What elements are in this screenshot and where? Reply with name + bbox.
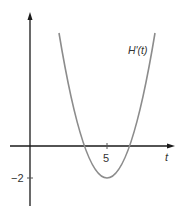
chart: H'(t) t 5 −2 bbox=[0, 0, 187, 217]
y-tick-label-neg2: −2 bbox=[11, 172, 24, 184]
x-axis bbox=[10, 144, 175, 149]
y-axis bbox=[28, 12, 33, 206]
x-axis-label: t bbox=[165, 151, 169, 163]
curve-label: H'(t) bbox=[128, 44, 148, 56]
x-tick-label-5: 5 bbox=[103, 152, 109, 164]
y-axis-arrow-icon bbox=[28, 12, 33, 20]
x-axis-arrow-icon bbox=[167, 144, 175, 149]
